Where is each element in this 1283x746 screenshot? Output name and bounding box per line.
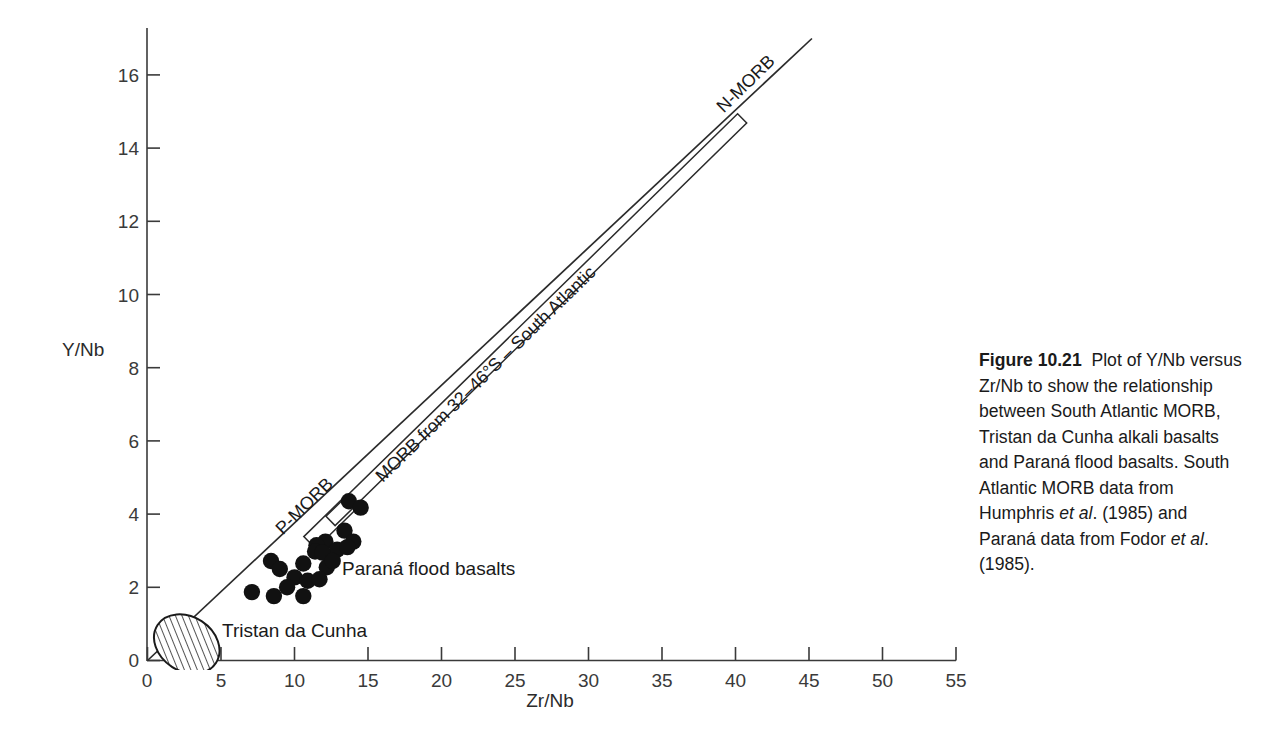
y-tick-label: 4 — [128, 504, 139, 525]
x-tick-label: 40 — [725, 670, 746, 691]
data-point — [244, 584, 260, 600]
data-point — [266, 588, 282, 604]
x-tick-label: 25 — [504, 670, 525, 691]
plot-annotations: N-MORB MORB from 32–46°S – South Atlanti… — [222, 51, 779, 641]
y-axis: 0 2 4 6 8 10 12 14 16 Y/Nb — [62, 28, 160, 671]
y-tick-label: 12 — [118, 211, 139, 232]
figure-number: Figure 10.21 — [979, 350, 1082, 370]
figure-page: 0 2 4 6 8 10 12 14 16 Y/Nb — [0, 0, 1283, 746]
caption-text-part1: Plot of Y/Nb versus Zr/Nb to show the re… — [979, 350, 1242, 523]
annotation-p-morb: P-MORB — [272, 474, 337, 539]
x-tick-label: 0 — [142, 670, 153, 691]
annotation-tristan-da-cunha: Tristan da Cunha — [222, 620, 367, 641]
data-point — [272, 561, 288, 577]
y-tick-label: 16 — [118, 65, 139, 86]
x-tick-label: 30 — [578, 670, 599, 691]
data-point — [325, 553, 341, 569]
data-point — [295, 588, 311, 604]
x-tick-label: 55 — [945, 670, 966, 691]
x-tick-label: 50 — [872, 670, 893, 691]
y-tick-label: 0 — [128, 650, 139, 671]
y-tick-label: 2 — [128, 577, 139, 598]
data-point — [339, 539, 355, 555]
annotation-parana-flood-basalts: Paraná flood basalts — [342, 558, 515, 579]
x-tick-label: 35 — [651, 670, 672, 691]
y-tick-label: 14 — [118, 138, 140, 159]
data-point — [352, 499, 368, 515]
y-axis-tick-labels: 0 2 4 6 8 10 12 14 16 — [118, 65, 140, 671]
data-point — [311, 571, 327, 587]
caption-et-al-2: et al — [1171, 529, 1204, 549]
y-tick-label: 10 — [118, 285, 139, 306]
x-axis-tick-labels: 0 5 10 15 20 25 30 35 40 45 50 55 — [142, 670, 967, 691]
annotation-n-morb: N-MORB — [713, 51, 779, 116]
x-axis: 0 5 10 15 20 25 30 35 40 45 50 55 Zr/Nb — [142, 647, 967, 711]
x-tick-label: 5 — [216, 670, 227, 691]
caption-et-al-1: et al — [1059, 503, 1092, 523]
y-axis-title: Y/Nb — [62, 339, 104, 360]
x-axis-ticks — [148, 647, 957, 661]
x-tick-label: 15 — [357, 670, 378, 691]
x-tick-label: 45 — [798, 670, 819, 691]
x-tick-label: 20 — [431, 670, 452, 691]
figure-caption: Figure 10.21 Plot of Y/Nb versus Zr/Nb t… — [979, 348, 1247, 578]
y-tick-label: 8 — [128, 358, 139, 379]
x-axis-title: Zr/Nb — [526, 690, 574, 711]
plot-area — [143, 39, 812, 686]
y-axis-ticks — [147, 75, 160, 661]
data-point — [295, 555, 311, 571]
y-tick-label: 6 — [128, 431, 139, 452]
x-tick-label: 10 — [284, 670, 305, 691]
annotation-morb-band: MORB from 32–46°S – South Atlantic — [372, 262, 600, 486]
